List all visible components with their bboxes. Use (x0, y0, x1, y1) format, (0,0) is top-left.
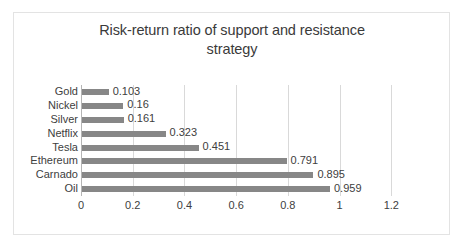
bar-row[interactable]: 0.791 (81, 154, 443, 168)
bar[interactable] (82, 131, 166, 137)
bar-value-label: 0.791 (291, 154, 319, 166)
bar[interactable] (82, 117, 124, 123)
bar-row[interactable]: 0.161 (81, 113, 443, 127)
x-tick-label: 1 (337, 199, 343, 211)
x-tick-label: 1.2 (384, 199, 399, 211)
category-label: Oil (65, 182, 78, 196)
category-axis: GoldNickelSilverNetflixTeslaEthereumCarn… (14, 85, 78, 196)
bar[interactable] (82, 172, 313, 178)
chart-title-line-1: Risk-return ratio of support and resista… (54, 21, 410, 40)
category-label: Ethereum (30, 154, 78, 168)
bar-row[interactable]: 0.959 (81, 182, 443, 196)
chart-frame: Risk-return ratio of support and resista… (13, 12, 450, 235)
category-label: Nickel (48, 99, 78, 113)
bar-row[interactable]: 0.323 (81, 127, 443, 141)
x-tick-label: 0.4 (177, 199, 192, 211)
bar[interactable] (82, 103, 123, 109)
x-tick-label: 0.8 (280, 199, 295, 211)
bar[interactable] (82, 89, 109, 95)
value-axis-tick-labels: 00.20.40.60.811.2 (81, 199, 443, 219)
category-label: Gold (55, 85, 78, 99)
category-label: Silver (50, 113, 78, 127)
bar-row[interactable]: 0.103 (81, 85, 443, 99)
bar[interactable] (82, 186, 330, 192)
bar-row[interactable]: 0.895 (81, 168, 443, 182)
bar-value-label: 0.323 (170, 126, 198, 138)
bar-value-label: 0.103 (113, 85, 141, 97)
plot-area: 0.1030.160.1610.3230.4510.7910.8950.959 (81, 85, 443, 196)
bar-row[interactable]: 0.451 (81, 141, 443, 155)
bar-value-label: 0.895 (317, 168, 345, 180)
bar[interactable] (82, 158, 287, 164)
bar-value-label: 0.161 (128, 112, 156, 124)
bar-value-label: 0.451 (203, 140, 231, 152)
bar-value-label: 0.959 (334, 182, 362, 194)
x-tick-label: 0.6 (228, 199, 243, 211)
bar-value-label: 0.16 (127, 98, 148, 110)
bar[interactable] (82, 145, 199, 151)
x-tick-label: 0.2 (125, 199, 140, 211)
chart-title: Risk-return ratio of support and resista… (54, 21, 410, 59)
category-label: Tesla (52, 141, 78, 155)
category-label: Carnado (36, 168, 78, 182)
chart-title-line-2: strategy (54, 40, 410, 59)
x-tick-label: 0 (78, 199, 84, 211)
category-label: Netflix (47, 127, 78, 141)
bar-row[interactable]: 0.16 (81, 99, 443, 113)
